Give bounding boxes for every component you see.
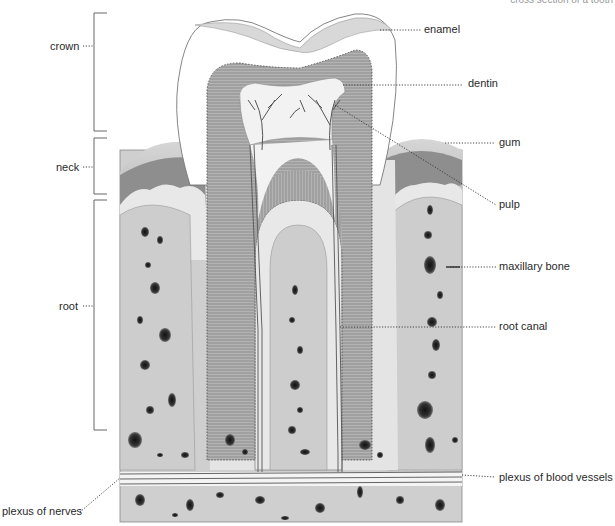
- brackets: [94, 13, 107, 430]
- tooth-cross-section-diagram: cross section of a tooth: [0, 0, 615, 526]
- label-root-canal: root canal: [499, 320, 547, 333]
- label-neck: neck: [56, 161, 79, 174]
- plexus-band: [120, 472, 462, 486]
- label-pulp: pulp: [499, 198, 520, 211]
- label-maxillary-bone: maxillary bone: [499, 260, 570, 273]
- label-enamel: enamel: [424, 23, 460, 36]
- label-crown: crown: [50, 40, 79, 53]
- label-plexus-of-blood-vessels: plexus of blood vessels: [499, 471, 613, 484]
- label-root: root: [59, 300, 78, 313]
- label-gum: gum: [499, 136, 520, 149]
- label-plexus-of-nerves: plexus of nerves: [2, 505, 82, 518]
- label-dentin: dentin: [468, 77, 498, 90]
